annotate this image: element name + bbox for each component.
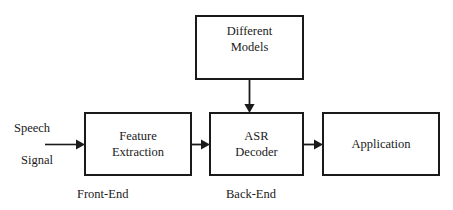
arrow-input-to-feature-extraction <box>44 136 86 153</box>
diagram-canvas: Different Models Feature Extraction ASR … <box>0 0 453 210</box>
node-feature-extraction-line-1: Feature <box>119 128 156 144</box>
node-asr-decoder[interactable]: ASR Decoder <box>209 112 304 176</box>
node-asr-decoder-line-2: Decoder <box>235 144 277 160</box>
node-feature-extraction[interactable]: Feature Extraction <box>84 112 192 176</box>
arrow-asr-decoder-to-application <box>301 136 324 153</box>
node-application[interactable]: Application <box>322 112 440 176</box>
node-different-models-line-1: Different <box>227 23 273 39</box>
arrow-different-models-to-asr-decoder <box>241 78 258 114</box>
node-different-models-line-2: Models <box>231 39 269 55</box>
node-feature-extraction-line-2: Extraction <box>112 144 164 160</box>
node-asr-decoder-line-1: ASR <box>244 128 268 144</box>
node-different-models[interactable]: Different Models <box>195 15 304 80</box>
input-label-speech: Speech <box>14 122 50 135</box>
node-application-line-1: Application <box>351 136 410 152</box>
input-label-signal: Signal <box>21 154 53 167</box>
section-label-back-end: Back-End <box>226 188 276 201</box>
arrow-feature-extraction-to-asr-decoder <box>189 136 211 153</box>
section-label-front-end: Front-End <box>77 188 128 201</box>
